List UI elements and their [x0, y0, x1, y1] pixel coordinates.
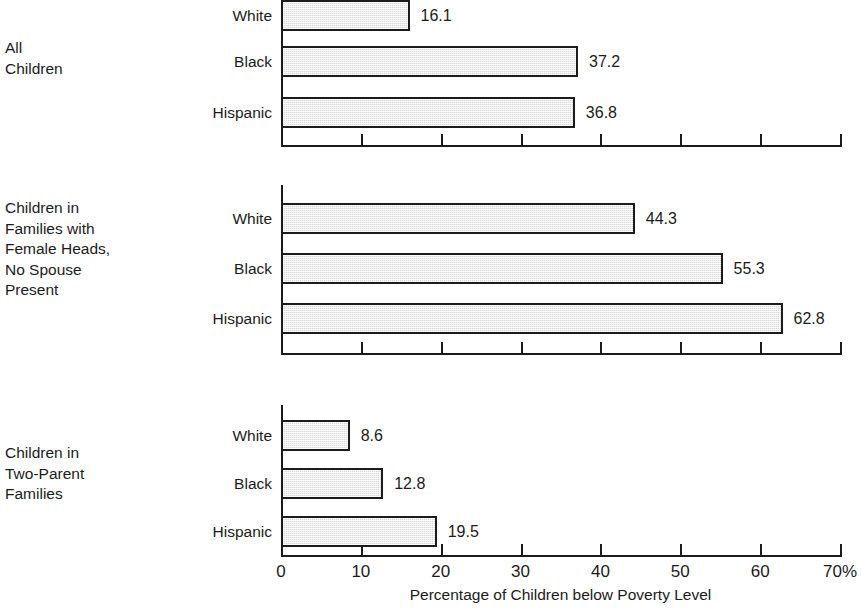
category-label-hispanic: Hispanic	[152, 311, 272, 327]
category-label-white: White	[152, 428, 272, 444]
x-axis-tick-10	[361, 342, 363, 353]
group-label-1: All Children	[5, 38, 175, 79]
bar-value-label: 12.8	[394, 476, 425, 492]
bar-value-label: 44.3	[646, 211, 677, 227]
bar-value-label: 8.6	[361, 428, 383, 444]
category-label-hispanic: Hispanic	[152, 105, 272, 121]
group-label-2: Children in Families with Female Heads, …	[5, 198, 175, 301]
bar-white-p1	[281, 0, 410, 31]
bar-black-p2	[281, 253, 723, 284]
x-axis-tick-50	[680, 342, 682, 353]
x-axis-tick-60	[760, 134, 762, 145]
x-tick-label-60: 60	[751, 563, 770, 581]
bar-value-label: 19.5	[448, 524, 479, 540]
x-axis-tick-70	[840, 134, 842, 145]
x-tick-label-70%: 70%	[823, 563, 857, 581]
bar-white-p2	[281, 203, 635, 234]
x-axis-tick-20	[441, 342, 443, 353]
x-axis-baseline	[281, 145, 842, 147]
x-axis-baseline	[281, 555, 842, 557]
x-tick-label-0: 0	[276, 563, 285, 581]
category-label-white: White	[152, 211, 272, 227]
x-axis-tick-70	[840, 342, 842, 353]
bar-value-label: 55.3	[734, 261, 765, 277]
bar-black-p3	[281, 468, 383, 499]
category-label-black: Black	[152, 476, 272, 492]
bar-value-label: 62.8	[794, 311, 825, 327]
x-axis-tick-70	[840, 544, 842, 555]
bar-hispanic-p3	[281, 516, 437, 547]
bar-hispanic-p2	[281, 303, 783, 334]
x-axis-tick-30	[521, 342, 523, 353]
group-label-3: Children in Two-Parent Families	[5, 443, 175, 505]
category-label-white: White	[152, 8, 272, 24]
category-label-black: Black	[152, 54, 272, 70]
category-label-hispanic: Hispanic	[152, 524, 272, 540]
x-axis-tick-20	[441, 544, 443, 555]
x-axis-tick-40	[600, 342, 602, 353]
x-axis-tick-30	[521, 544, 523, 555]
bar-value-label: 36.8	[586, 105, 617, 121]
x-tick-label-10: 10	[351, 563, 370, 581]
x-tick-label-30: 30	[511, 563, 530, 581]
bar-value-label: 16.1	[421, 8, 452, 24]
category-label-black: Black	[152, 261, 272, 277]
bar-white-p3	[281, 420, 350, 451]
x-axis-tick-60	[760, 342, 762, 353]
bar-value-label: 37.2	[589, 54, 620, 70]
x-axis-title: Percentage of Children below Poverty Lev…	[281, 586, 840, 604]
x-tick-label-40: 40	[591, 563, 610, 581]
x-axis-baseline	[281, 353, 842, 355]
bar-black-p1	[281, 46, 578, 77]
x-axis-tick-60	[760, 544, 762, 555]
poverty-bar-chart: All Children16.137.236.8WhiteBlackHispan…	[0, 0, 862, 609]
x-axis-tick-40	[600, 544, 602, 555]
x-tick-label-20: 20	[431, 563, 450, 581]
x-axis-tick-10	[361, 134, 363, 145]
x-axis-tick-20	[441, 134, 443, 145]
x-axis-tick-30	[521, 134, 523, 145]
x-tick-label-50: 50	[671, 563, 690, 581]
x-axis-tick-50	[680, 134, 682, 145]
x-axis-tick-40	[600, 134, 602, 145]
x-axis-tick-50	[680, 544, 682, 555]
bar-hispanic-p1	[281, 97, 575, 128]
